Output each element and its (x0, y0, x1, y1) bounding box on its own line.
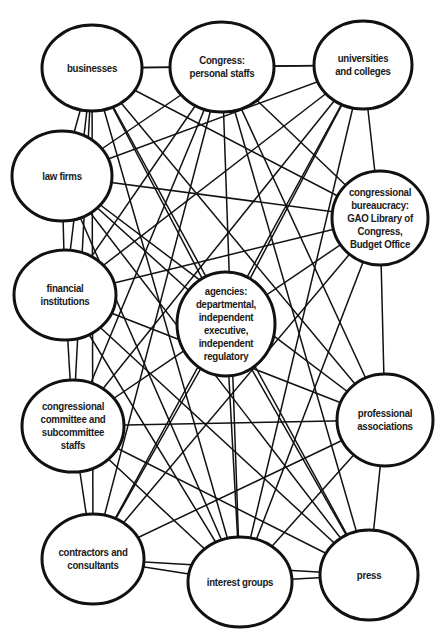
node-universities (314, 21, 412, 109)
node-congress_personal (170, 22, 274, 112)
policy-network-diagram: businessesCongress: personal staffsunive… (0, 0, 442, 642)
node-contractors (42, 514, 144, 604)
node-press (320, 530, 418, 620)
node-financial_institutions (14, 250, 116, 340)
node-layer (0, 0, 442, 642)
node-law_firms (12, 131, 112, 221)
node-congressional_bureaucracy (332, 171, 428, 265)
node-interest_groups (188, 537, 292, 627)
node-congressional_committee (22, 380, 124, 472)
node-professional_associations (337, 374, 433, 466)
node-agencies (177, 272, 275, 376)
node-businesses (42, 25, 142, 111)
